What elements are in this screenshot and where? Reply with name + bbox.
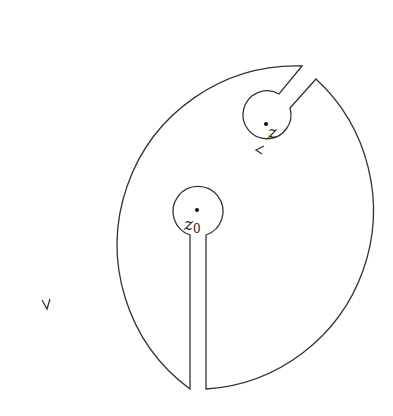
- z0-point: [195, 208, 199, 212]
- arrow-outer-icon: [42, 299, 50, 309]
- z0-label: z0: [183, 214, 201, 236]
- contour-diagram: z0 z: [0, 0, 393, 416]
- z-label: z: [267, 122, 278, 142]
- outer-contour: [117, 66, 373, 389]
- arrow-z-icon: [256, 146, 264, 154]
